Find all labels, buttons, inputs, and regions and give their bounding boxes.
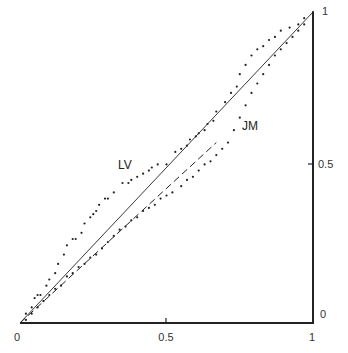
data-point (75, 238, 77, 240)
data-point (230, 92, 232, 94)
y-tick-label-1: 1 (322, 5, 328, 17)
x-tick-label-05: 0.5 (158, 331, 173, 343)
data-point (303, 17, 305, 19)
data-point (209, 160, 211, 162)
data-point (154, 204, 156, 206)
data-point (130, 219, 132, 221)
data-point (280, 30, 282, 32)
data-point (107, 241, 109, 243)
data-point (142, 173, 144, 175)
data-point (148, 207, 150, 209)
series-jm-points (25, 14, 314, 321)
data-point (189, 138, 191, 140)
data-point (280, 48, 282, 50)
data-point (25, 313, 27, 315)
data-point (186, 145, 188, 147)
data-point (198, 170, 200, 172)
data-point (268, 39, 270, 41)
data-point (250, 92, 252, 94)
data-point (72, 272, 74, 274)
data-point (236, 86, 238, 88)
data-point (151, 166, 153, 168)
data-point (124, 226, 126, 228)
data-point (206, 123, 208, 125)
data-point (262, 73, 264, 75)
data-point (286, 42, 288, 44)
data-point (136, 216, 138, 218)
data-point (224, 101, 226, 103)
data-point (268, 64, 270, 66)
data-point (113, 235, 115, 237)
x-tick-label-1: 1 (309, 331, 315, 343)
data-point (101, 247, 103, 249)
data-point (274, 54, 276, 56)
x-tick-label-0: 0 (14, 331, 20, 343)
data-point (89, 216, 91, 218)
data-point (303, 23, 305, 25)
data-point (245, 104, 247, 106)
data-point (42, 300, 44, 302)
data-point (136, 176, 138, 178)
data-point (180, 148, 182, 150)
data-point (34, 297, 36, 299)
data-point (31, 306, 33, 308)
data-point (113, 191, 115, 193)
data-point (195, 135, 197, 137)
data-point (262, 45, 264, 47)
data-point (289, 27, 291, 29)
data-point (48, 278, 50, 280)
data-point (239, 117, 241, 119)
chart: 0 0.5 1 0 0.5 1 LV JM (0, 0, 348, 353)
data-point (142, 210, 144, 212)
data-point (63, 254, 65, 256)
data-point (60, 285, 62, 287)
data-point (250, 54, 252, 56)
data-point (256, 82, 258, 84)
data-point (256, 48, 258, 50)
data-point (107, 198, 109, 200)
data-point (148, 170, 150, 172)
data-point (227, 142, 229, 144)
data-point (66, 244, 68, 246)
data-point (92, 213, 94, 215)
data-point (39, 294, 41, 296)
label-lv: LV (118, 158, 132, 172)
data-point (98, 204, 100, 206)
data-point (66, 275, 68, 277)
data-point (37, 306, 39, 308)
data-point (297, 30, 299, 32)
data-point (78, 266, 80, 268)
data-point (215, 154, 217, 156)
data-point (165, 163, 167, 165)
data-point (95, 254, 97, 256)
data-point (174, 151, 176, 153)
data-point (204, 129, 206, 131)
data-point (104, 198, 106, 200)
data-point (215, 110, 217, 112)
data-point (221, 148, 223, 150)
data-point (83, 263, 85, 265)
y-tick-label-0: 0 (320, 308, 326, 320)
data-point (57, 263, 59, 265)
series-layer (20, 11, 314, 323)
data-point (54, 288, 56, 290)
data-point (48, 294, 50, 296)
data-point (198, 132, 200, 134)
data-point (233, 129, 235, 131)
data-point (25, 319, 27, 321)
data-point (204, 163, 206, 165)
data-point (274, 36, 276, 38)
y-tick-label-05: 0.5 (318, 158, 333, 170)
data-point (160, 198, 162, 200)
data-point (80, 232, 82, 234)
data-point (291, 36, 293, 38)
diagonal-line (20, 12, 313, 323)
data-point (245, 64, 247, 66)
data-point (157, 163, 159, 165)
data-point (119, 229, 121, 231)
data-point (37, 294, 39, 296)
data-point (31, 313, 33, 315)
data-point (180, 185, 182, 187)
data-point (95, 210, 97, 212)
data-point (165, 194, 167, 196)
